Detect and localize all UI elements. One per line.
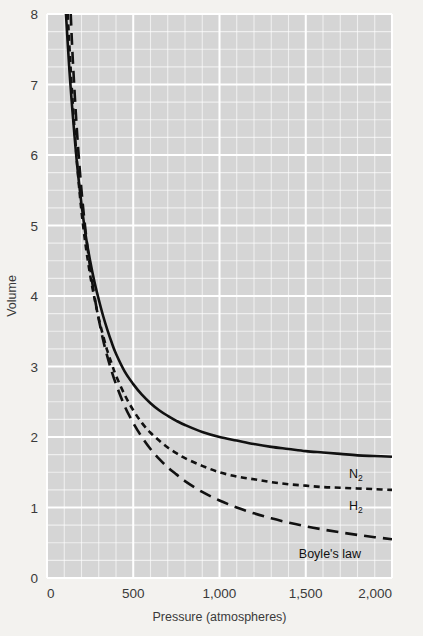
- pressure-volume-chart: 01234567805001,0001,5002,000Pressure (at…: [0, 0, 423, 636]
- y-tick-label: 0: [30, 571, 38, 586]
- y-tick-label: 5: [30, 219, 38, 234]
- x-tick-label: 1,500: [289, 586, 323, 601]
- curve-label-subscript: 2: [358, 505, 363, 515]
- curve-label-boyle-s-law: Boyle's law: [299, 547, 362, 561]
- x-tick-label: 1,000: [203, 586, 237, 601]
- x-tick-label: 0: [47, 586, 55, 601]
- y-tick-label: 2: [30, 430, 38, 445]
- y-axis-title: Volume: [5, 275, 19, 317]
- curve-label-subscript: 2: [358, 473, 363, 483]
- y-tick-label: 8: [30, 7, 38, 22]
- y-tick-label: 3: [30, 360, 38, 375]
- x-tick-label: 500: [122, 586, 145, 601]
- chart-figure: 01234567805001,0001,5002,000Pressure (at…: [0, 0, 423, 636]
- y-tick-label: 4: [30, 289, 38, 304]
- x-tick-label: 2,000: [358, 586, 392, 601]
- y-tick-label: 7: [30, 78, 38, 93]
- x-axis-title: Pressure (atmospheres): [152, 610, 286, 624]
- y-tick-label: 1: [30, 501, 38, 516]
- y-tick-label: 6: [30, 148, 38, 163]
